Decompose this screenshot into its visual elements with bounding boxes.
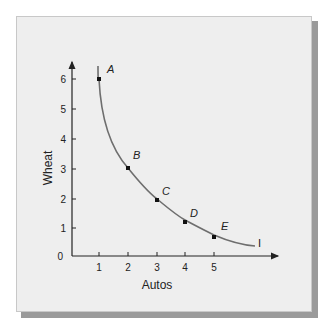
point-label-a: A xyxy=(106,63,114,75)
x-tick-5: 5 xyxy=(211,262,217,273)
x-tick-3: 3 xyxy=(154,262,160,273)
y-axis-label: Wheat xyxy=(41,150,55,185)
curve-label: I xyxy=(258,237,261,249)
point-label-d: D xyxy=(190,207,198,219)
y-tick-4: 4 xyxy=(60,134,66,145)
data-points xyxy=(97,77,216,239)
x-tick-1: 1 xyxy=(96,262,102,273)
y-tick-3: 3 xyxy=(60,164,66,175)
y-tick-6: 6 xyxy=(60,74,66,85)
y-tick-5: 5 xyxy=(60,104,66,115)
y-tick-0: 0 xyxy=(57,251,63,262)
indifference-curve xyxy=(98,66,255,246)
x-axis-label: Autos xyxy=(142,278,173,292)
x-tick-2: 2 xyxy=(125,262,131,273)
y-tick-2: 2 xyxy=(60,194,66,205)
point-label-e: E xyxy=(221,220,229,232)
point-label-c: C xyxy=(162,185,170,197)
x-tick-4: 4 xyxy=(182,262,188,273)
point-label-b: B xyxy=(133,149,140,161)
indifference-curve-chart: 0 1 2 3 4 5 6 1 2 3 4 5 Autos Wheat A B … xyxy=(0,0,335,335)
y-tick-1: 1 xyxy=(60,223,66,234)
